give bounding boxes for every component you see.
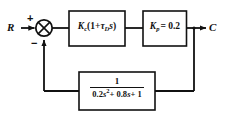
process-gain-value: = 0.2 (160, 21, 180, 31)
feedback-fraction: 1 0.2s2+ 0.8s+ 1 (90, 77, 143, 99)
input-signal-label: R (7, 22, 14, 33)
summing-junction-symbol (36, 20, 52, 36)
feedback-block-expression: 1 0.2s2+ 0.8s+ 1 (82, 77, 152, 100)
summing-plus-sign: + (27, 13, 33, 24)
feedback-denominator: 0.2s2+ 0.8s+ 1 (90, 88, 143, 99)
den-coeff-a: 0.2 (92, 89, 103, 99)
output-branch-point (192, 26, 195, 91)
wire-feedback-to-sum (44, 40, 79, 91)
summing-minus-sign: − (31, 38, 37, 49)
controller-block-expression: Kc(1+τDs) (74, 22, 120, 33)
process-gain-subscript: p (156, 25, 159, 32)
output-signal-label: C (209, 22, 216, 33)
controller-open-paren: (1+ (87, 21, 100, 31)
controller-close-paren: ) (113, 21, 116, 31)
process-block-expression: Kp= 0.2 (148, 22, 182, 33)
den-coeff-b: + 0.8 (110, 89, 128, 99)
den-coeff-c: + 1 (130, 89, 141, 99)
feedback-numerator: 1 (90, 77, 143, 86)
block-diagram: R + − Kc(1+τDs) Kp= 0.2 1 0.2s2+ 0.8s+ 1… (0, 0, 225, 114)
